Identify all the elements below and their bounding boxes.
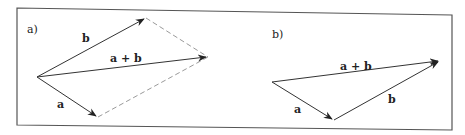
vector-b-label: b — [82, 32, 90, 45]
panel-b-label: b) — [272, 28, 283, 41]
panel-a-label: a) — [27, 23, 38, 36]
vector-a-label: a — [57, 98, 64, 111]
vector-sum-label: a + b — [110, 52, 142, 65]
vector-sum-label: a + b — [340, 60, 372, 73]
vector-a-arrow — [272, 82, 332, 119]
vector-b-arrow — [37, 19, 144, 77]
panel-a: a) b a + b a — [27, 18, 208, 117]
figure-frame — [17, 8, 452, 130]
vector-addition-diagram: a) b a + b a b) a + b a b — [0, 0, 465, 135]
dashed-edge-top — [146, 18, 208, 57]
vector-a-arrow — [37, 77, 96, 116]
dashed-edge-bottom — [98, 57, 208, 117]
vector-a-label: a — [294, 103, 301, 116]
vector-b-label: b — [388, 93, 396, 106]
panel-b: b) a + b a b — [272, 28, 438, 120]
